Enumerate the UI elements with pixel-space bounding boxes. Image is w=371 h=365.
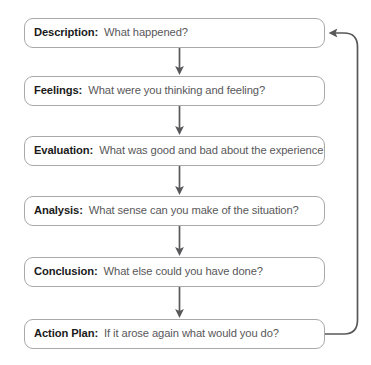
stage-description-label: Description: xyxy=(34,26,98,38)
stage-feelings-label: Feelings: xyxy=(34,84,82,96)
stage-conclusion-question: What else could you have done? xyxy=(104,265,263,277)
stage-description-question: What happened? xyxy=(104,26,188,38)
stage-conclusion[interactable]: Conclusion: What else could you have don… xyxy=(24,257,325,287)
stage-feelings[interactable]: Feelings: What were you thinking and fee… xyxy=(24,76,325,106)
stage-analysis[interactable]: Analysis: What sense can you make of the… xyxy=(24,196,325,226)
stage-evaluation-question: What was good and bad about the experien… xyxy=(99,144,325,156)
stage-action-plan[interactable]: Action Plan: If it arose again what woul… xyxy=(24,319,325,349)
stage-evaluation-label: Evaluation: xyxy=(34,144,93,156)
stage-analysis-label: Analysis: xyxy=(34,204,83,216)
stage-feelings-question: What were you thinking and feeling? xyxy=(88,84,265,96)
stage-action-plan-question: If it arose again what would you do? xyxy=(104,327,279,339)
stage-description[interactable]: Description: What happened? xyxy=(24,18,325,48)
feedback-loop-arrow xyxy=(325,33,358,334)
stage-analysis-question: What sense can you make of the situation… xyxy=(89,204,299,216)
connector-layer xyxy=(0,0,371,365)
reflective-cycle-diagram: Description: What happened? Feelings: Wh… xyxy=(0,0,371,365)
stage-evaluation[interactable]: Evaluation: What was good and bad about … xyxy=(24,136,325,166)
stage-conclusion-label: Conclusion: xyxy=(34,265,98,277)
stage-action-plan-label: Action Plan: xyxy=(34,327,98,339)
